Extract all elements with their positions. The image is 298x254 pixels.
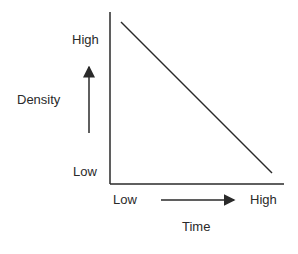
y-tick-high: High [72, 32, 99, 47]
x-tick-low: Low [113, 192, 137, 207]
density-time-diagram [0, 0, 298, 254]
y-tick-low: Low [73, 164, 97, 179]
density-line [121, 22, 272, 173]
y-axis-label: Density [17, 92, 60, 107]
x-tick-high: High [250, 192, 277, 207]
x-axis-label: Time [182, 219, 210, 234]
